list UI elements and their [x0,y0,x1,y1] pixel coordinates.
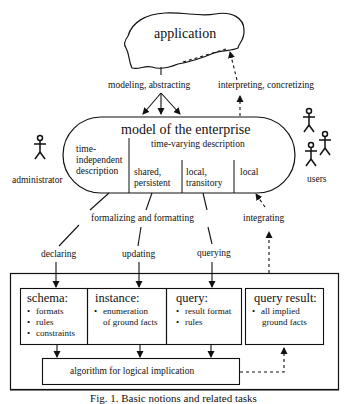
declaring-line [59,225,79,246]
query-result-title: query result: [254,292,317,305]
query-result-items: all implied [251,306,300,317]
query-result-item-line2: ground facts [262,318,307,327]
instance-item-line1: enumeration [93,306,148,317]
users-label: users [307,175,327,185]
local-transitory-label: local, transitory [186,167,222,189]
time-varying-label: time-varying description [151,140,245,150]
interpreting-label: interpreting, concretizing [218,81,314,91]
query-title: query: [176,292,208,305]
query-items: result format rules [175,306,231,328]
administrator-figure-icon [34,136,46,160]
updating-line [138,227,141,246]
instance-item-line2: of ground facts [103,318,157,327]
local-transitory-line2: transitory [186,178,222,189]
time-independent-line3: description [76,166,122,177]
formalizing-line-3 [203,193,207,210]
algorithm-to-result-dashed [240,348,284,372]
time-independent-line2: independent [76,155,122,166]
schema-title: schema: [27,292,68,305]
model-title: model of the enterprise [121,123,250,137]
formalizing-line-1 [90,193,109,210]
instance-items: enumeration [93,306,148,317]
figure-caption: Fig. 1. Basic notions and related tasks [0,392,347,404]
integrating-arrow-upper [256,194,265,207]
integrating-label: integrating [243,214,284,224]
modeling-label: modeling, abstracting [108,81,190,91]
shared-persistent-label: shared, persistent [134,167,170,189]
time-independent-line1: time- [76,144,122,155]
time-independent-label: time- independent description [76,144,122,177]
query-result-item-line1: all implied [251,306,300,317]
algorithm-label: algorithm for logical implication [70,367,194,377]
shared-line2: persistent [134,178,170,189]
updating-label: updating [122,250,155,260]
querying-label: querying [197,249,231,259]
local-transitory-line1: local, [186,167,222,178]
declaring-label: declaring [41,250,76,260]
modeling-arrow-right [161,93,180,114]
application-label: application [154,27,216,41]
query-item-rules: rules [175,317,231,328]
interpreting-arrow-upper [230,52,237,80]
instance-title: instance: [95,292,139,305]
shared-line1: shared, [134,167,170,178]
local-label: local [240,168,258,178]
schema-item-rules: rules [26,317,75,328]
modeling-arrow-left [143,93,161,114]
querying-line [208,227,212,244]
interpreting-dashed-link [183,49,226,62]
schema-item-formats: formats [26,306,75,317]
schema-item-constraints: constraints [26,328,75,339]
administrator-label: administrator [12,176,63,186]
query-item-result-format: result format [175,306,231,317]
users-figures-icon [303,109,331,167]
formalizing-line-2 [146,193,152,210]
schema-items: formats rules constraints [26,306,75,339]
formalizing-label: formalizing and formatting [91,214,194,224]
